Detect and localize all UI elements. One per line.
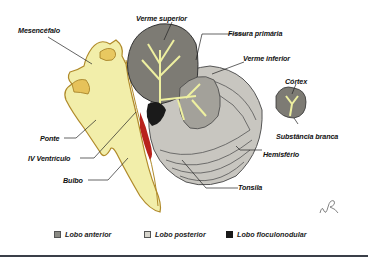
bottom-divider bbox=[0, 255, 368, 257]
label-hemisferio: Hemisfério bbox=[263, 150, 299, 159]
swatch-anterior-icon bbox=[54, 231, 61, 238]
label-tonsila: Tonsila bbox=[238, 183, 262, 192]
label-cortex: Córtex bbox=[285, 77, 307, 86]
legend-label-floculonodular: Lobo floculonodular bbox=[237, 230, 306, 239]
legend-item-anterior: Lobo anterior bbox=[54, 230, 111, 239]
artist-signature-icon bbox=[318, 197, 342, 217]
inset-folium bbox=[276, 87, 306, 118]
label-mesencefalo: Mesencéfalo bbox=[18, 26, 60, 35]
swatch-floculonodular-icon bbox=[226, 231, 233, 238]
label-iv-ventriculo: IV Ventrículo bbox=[28, 154, 70, 163]
cerebellum-illustration bbox=[0, 0, 368, 259]
label-substancia-branca: Substância branca bbox=[276, 132, 338, 141]
label-verme-inferior: Verme inferior bbox=[243, 54, 290, 63]
legend-item-floculonodular: Lobo floculonodular bbox=[226, 230, 306, 239]
swatch-posterior-icon bbox=[144, 231, 151, 238]
label-ponte: Ponte bbox=[40, 134, 59, 143]
cerebellum-diagram: Mesencéfalo Verme superior Fissura primá… bbox=[0, 0, 368, 259]
legend-label-posterior: Lobo posterior bbox=[155, 230, 206, 239]
label-fissura-primaria: Fissura primária bbox=[228, 29, 282, 38]
legend-item-posterior: Lobo posterior bbox=[144, 230, 206, 239]
label-verme-superior: Verme superior bbox=[136, 14, 187, 23]
legend-label-anterior: Lobo anterior bbox=[65, 230, 111, 239]
label-bulbo: Bulbo bbox=[63, 176, 83, 185]
